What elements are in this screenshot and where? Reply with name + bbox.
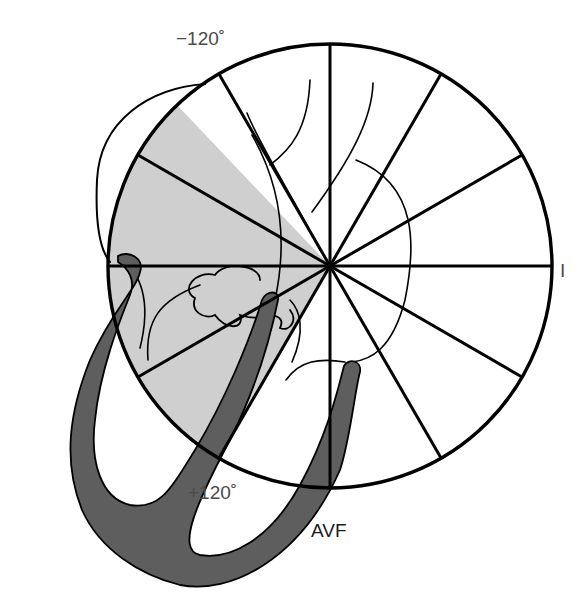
aorta-curve-left [270,80,310,165]
right-chamber-curve-2 [286,360,345,380]
axis-minus30 [330,155,522,266]
axis-minus60 [330,74,441,266]
center-hub [325,261,335,271]
label-plus120: +120˚ [188,482,237,503]
label-minus120: −120˚ [176,28,225,49]
hexaxial-diagram: −120˚ I +120˚ AVF [0,0,588,602]
aorta-curve-right [312,83,373,212]
label-avf: AVF [311,520,347,541]
label-lead-I: I [560,260,565,281]
inner-arc-right [352,160,411,362]
